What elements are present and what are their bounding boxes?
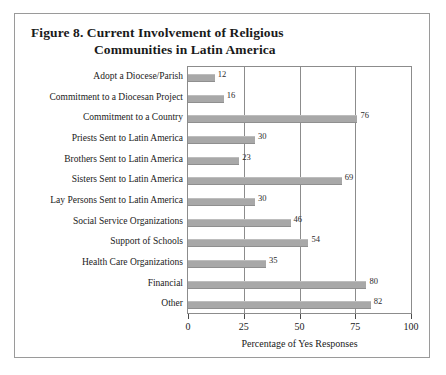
bar-value-label: 16 <box>227 90 236 101</box>
bar <box>188 281 366 289</box>
title-line-2: Communities in Latin America <box>31 41 415 58</box>
category-label: Sisters Sent to Latin America <box>15 173 183 185</box>
category-label: Commitment to a Country <box>15 111 183 123</box>
bar-row: 35 <box>188 253 411 276</box>
bar-row: 80 <box>188 274 411 297</box>
bar <box>188 301 371 309</box>
bar-row: 16 <box>188 88 411 111</box>
bar <box>188 95 224 103</box>
category-label: Other <box>15 297 183 309</box>
bar <box>188 239 308 247</box>
bar-value-label: 82 <box>374 296 383 307</box>
bar-row: 54 <box>188 232 411 255</box>
category-axis-labels: Adopt a Diocese/ParishCommitment to a Di… <box>15 66 183 314</box>
bar-value-label: 30 <box>258 193 267 204</box>
bar-value-label: 76 <box>360 110 369 121</box>
tick-mark <box>188 314 189 319</box>
bar <box>188 177 342 185</box>
bar-value-label: 54 <box>311 234 320 245</box>
tick-label: 50 <box>285 320 315 333</box>
bar-value-label: 80 <box>369 276 378 287</box>
tick-label: 25 <box>229 320 259 333</box>
bar <box>188 198 255 206</box>
bar-value-label: 46 <box>294 214 303 225</box>
bar-row: 23 <box>188 150 411 173</box>
bar <box>188 260 266 268</box>
tick-mark <box>355 314 356 319</box>
category-label: Social Service Organizations <box>15 215 183 227</box>
bar <box>188 157 239 165</box>
category-label: Support of Schools <box>15 235 183 247</box>
bar-row: 46 <box>188 212 411 235</box>
category-label: Health Care Organizations <box>15 256 183 268</box>
tick-label: 0 <box>173 320 203 333</box>
x-axis-title: Percentage of Yes Responses <box>187 338 412 349</box>
tick-mark <box>244 314 245 319</box>
bar-value-label: 23 <box>242 152 251 163</box>
category-label: Commitment to a Diocesan Project <box>15 91 183 103</box>
tick-mark <box>411 314 412 319</box>
tick-mark <box>300 314 301 319</box>
tick-label: 100 <box>396 320 426 333</box>
bar <box>188 115 357 123</box>
plot-area: 121676302369304654358082 <box>187 66 412 314</box>
tick-label: 75 <box>340 320 370 333</box>
bar-row: 30 <box>188 129 411 152</box>
category-label: Financial <box>15 277 183 289</box>
bar <box>188 74 215 82</box>
page-title: Figure 8. Current Involvement of Religio… <box>31 24 415 58</box>
category-label: Priests Sent to Latin America <box>15 132 183 144</box>
bar <box>188 136 255 144</box>
bar-row: 30 <box>188 191 411 214</box>
category-label: Brothers Sent to Latin America <box>15 153 183 165</box>
title-line-1: Figure 8. Current Involvement of Religio… <box>31 24 415 41</box>
category-label: Adopt a Diocese/Parish <box>15 70 183 82</box>
bar-row: 76 <box>188 108 411 131</box>
category-label: Lay Persons Sent to Latin America <box>15 194 183 206</box>
bar-value-label: 69 <box>345 172 354 183</box>
bar-row: 12 <box>188 67 411 90</box>
figure-frame: Figure 8. Current Involvement of Religio… <box>14 13 430 358</box>
bar-value-label: 35 <box>269 255 278 266</box>
bar-value-label: 30 <box>258 131 267 142</box>
bar <box>188 219 291 227</box>
bar-row: 69 <box>188 170 411 193</box>
bar-value-label: 12 <box>218 69 227 80</box>
